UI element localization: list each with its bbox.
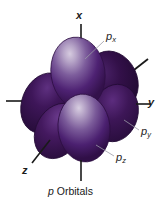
axis-label-z: z	[22, 165, 28, 176]
figure-caption: p Orbitals	[48, 186, 93, 197]
orbital-label-px-sub: x	[112, 35, 116, 44]
orbital-label-py-sub: y	[147, 130, 151, 139]
orbital-label-py: py	[141, 126, 151, 137]
axis-label-y: y	[148, 97, 154, 108]
orbital-label-pz-sub: z	[122, 156, 126, 165]
p-orbitals-figure: x y z px py pz p Orbitals	[0, 0, 168, 205]
figure-caption-rest: Orbitals	[54, 185, 93, 197]
axis-label-x: x	[76, 10, 82, 21]
orbital-label-pz: pz	[116, 152, 126, 163]
orbital-label-px: px	[106, 31, 116, 42]
